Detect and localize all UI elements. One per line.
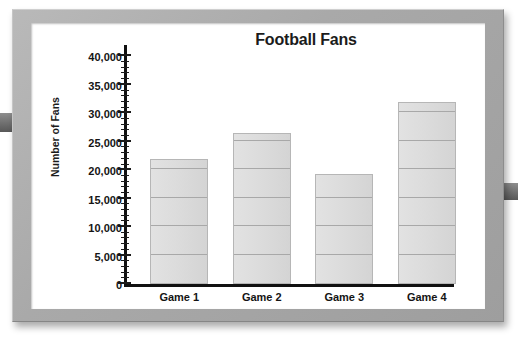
bar-segment-line (151, 254, 207, 255)
y-tick-label: 40,000 (36, 51, 122, 63)
y-tick-minor (121, 237, 129, 238)
bar-segment-line (234, 197, 290, 198)
y-tick-minor (121, 243, 129, 244)
bar-segment-line (234, 225, 290, 226)
y-tick-label: 0 (36, 279, 122, 291)
bar-segment-line (316, 254, 372, 255)
y-tick-minor (121, 124, 129, 125)
bar[interactable] (233, 133, 291, 284)
x-tick-label: Game 1 (138, 291, 221, 303)
y-tick-minor (121, 277, 129, 278)
bar-segment-line (399, 225, 455, 226)
x-tick-label: Game 2 (221, 291, 304, 303)
y-tick-label: 15,000 (36, 194, 122, 206)
y-tick-minor (121, 175, 129, 176)
y-tick-minor (121, 232, 129, 233)
picture-frame: Football Fans Number of Fans 05,00010,00… (12, 9, 504, 322)
y-tick-minor (121, 78, 129, 79)
y-tick-minor (121, 72, 129, 73)
y-tick-minor (121, 152, 129, 153)
x-tick-label: Game 3 (303, 291, 386, 303)
bar-segment-line (151, 168, 207, 169)
y-tick-minor (121, 146, 129, 147)
bar[interactable] (398, 102, 456, 284)
y-tick-minor (121, 209, 129, 210)
y-tick-minor (121, 101, 129, 102)
y-tick-minor (121, 186, 129, 187)
bar-segment-line (316, 197, 372, 198)
y-tick-minor (121, 67, 129, 68)
bar-segment-line (399, 140, 455, 141)
y-tick-label: 5,000 (36, 251, 122, 263)
y-tick-label: 35,000 (36, 80, 122, 92)
bar-segment-line (316, 225, 372, 226)
x-tick-label: Game 4 (386, 291, 469, 303)
bar[interactable] (150, 159, 208, 284)
plot-area: 05,00010,00015,00020,00025,00030,00035,0… (124, 45, 454, 284)
bar-segment-line (399, 254, 455, 255)
y-tick-minor (121, 272, 129, 273)
y-tick-minor (121, 95, 129, 96)
bar-segment-line (151, 225, 207, 226)
bar-segment-line (234, 254, 290, 255)
y-tick-minor (121, 260, 129, 261)
screenshot-root: Football Fans Number of Fans 05,00010,00… (0, 0, 518, 338)
y-tick-minor (121, 107, 129, 108)
bar-segment-line (234, 168, 290, 169)
y-tick-minor (121, 266, 129, 267)
bar-segment-line (399, 197, 455, 198)
y-tick-minor (121, 158, 129, 159)
y-tick-minor (121, 129, 129, 130)
x-axis-line (124, 284, 454, 287)
y-tick-minor (121, 203, 129, 204)
bar-segment-line (399, 168, 455, 169)
y-tick-minor (121, 215, 129, 216)
y-tick-label: 30,000 (36, 108, 122, 120)
y-tick-minor (121, 192, 129, 193)
y-tick-minor (121, 181, 129, 182)
y-tick-minor (121, 164, 129, 165)
y-tick-minor (121, 61, 129, 62)
y-tick-minor (121, 220, 129, 221)
y-tick-label: 10,000 (36, 222, 122, 234)
bar-segment-line (151, 197, 207, 198)
y-tick-minor (121, 118, 129, 119)
chart-canvas: Football Fans Number of Fans 05,00010,00… (31, 23, 485, 309)
y-tick-label: 20,000 (36, 165, 122, 177)
y-tick-minor (121, 249, 129, 250)
bar-segment-line (234, 140, 290, 141)
y-tick-minor (121, 90, 129, 91)
y-tick-minor (121, 135, 129, 136)
bar-segment-line (399, 111, 455, 112)
bar[interactable] (315, 174, 373, 284)
y-tick-label: 25,000 (36, 137, 122, 149)
